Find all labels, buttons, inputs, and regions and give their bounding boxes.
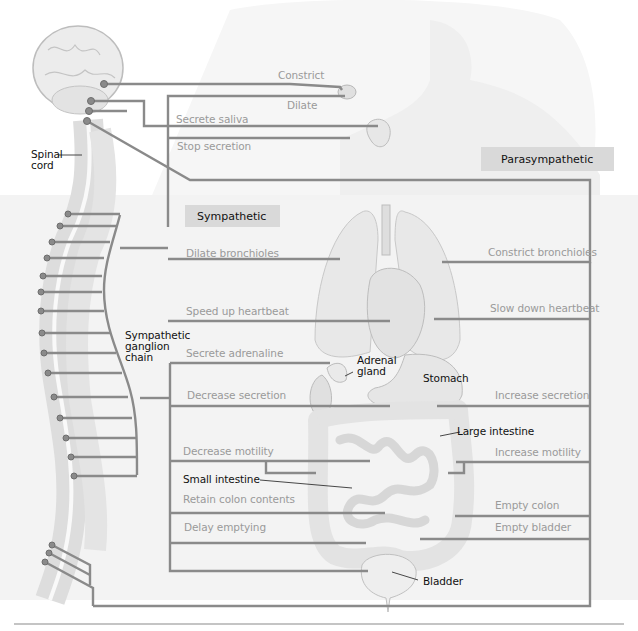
sympathetic-header: Sympathetic [185,205,280,227]
decrease-motility-label: Decrease motility [183,446,274,457]
increase-secretion-label: Increase secretion [495,390,589,401]
eye-constrict-label: Constrict [278,70,324,81]
constrict-bronchioles-label: Constrict bronchioles [488,247,597,258]
eye-dilate-label: Dilate [287,100,317,111]
secrete-saliva-label: Secrete saliva [176,114,248,125]
small-intestine-label: Small intestine [183,474,260,485]
bladder-label: Bladder [423,576,463,587]
delay-emptying-label: Delay emptying [184,522,266,533]
secrete-adrenaline-label: Secrete adrenaline [186,348,283,359]
stomach-label: Stomach [423,373,469,384]
decrease-secretion-label: Decrease secretion [187,390,286,401]
large-intestine-label: Large intestine [457,426,534,437]
retain-colon-contents-label: Retain colon contents [183,494,295,505]
diagram-artwork [0,0,638,631]
slow-down-heartbeat-label: Slow down heartbeat [490,303,599,314]
dilate-bronchioles-label: Dilate bronchioles [186,248,279,259]
ans-diagram: Sympathetic Parasympathetic Spinal cord … [0,0,638,631]
adrenal-gland-label: Adrenal gland [357,355,397,377]
spinal-cord-label: Spinal cord [31,149,63,171]
parasympathetic-header: Parasympathetic [481,147,614,171]
empty-bladder-label: Empty bladder [495,522,571,533]
stop-secretion-label: Stop secretion [177,141,251,152]
increase-motility-label: Increase motility [495,447,581,458]
bladder-icon [361,554,416,612]
ganglion-chain-label: Sympathetic ganglion chain [125,330,190,363]
empty-colon-label: Empty colon [495,500,559,511]
speed-up-heartbeat-label: Speed up heartbeat [186,306,289,317]
